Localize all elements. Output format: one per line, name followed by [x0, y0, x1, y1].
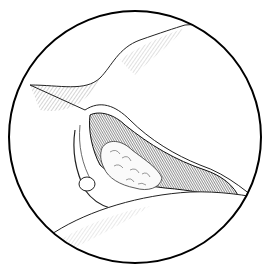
illustration	[0, 0, 270, 275]
medical-illustration	[0, 0, 270, 275]
